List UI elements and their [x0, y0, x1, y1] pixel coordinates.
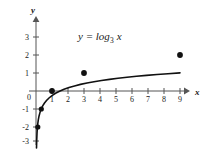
data-point	[49, 88, 55, 94]
x-axis-label: x	[194, 87, 200, 97]
x-tick-label: 8	[162, 95, 166, 104]
x-tick-label: 5	[114, 95, 118, 104]
x-tick-label: 2	[66, 95, 70, 104]
x-tick-label: 3	[82, 95, 86, 104]
equation-annotation: y = log3x	[77, 30, 122, 45]
x-axis-arrow-icon	[184, 88, 190, 95]
equation-main: y = log	[77, 30, 110, 42]
y-tick-label-origin: 0	[27, 93, 31, 102]
y-tick-label: 1	[25, 69, 29, 78]
data-point	[39, 106, 44, 111]
y-tick-label: -3	[22, 137, 29, 146]
data-point	[177, 52, 183, 58]
y-tick-label: 3	[25, 33, 29, 42]
y-tick-label: -2	[22, 123, 29, 132]
equation-base-subscript: 3	[110, 36, 114, 45]
x-tick-label: 4	[98, 95, 102, 104]
data-point	[81, 70, 87, 76]
y-axis-label: y	[30, 5, 36, 15]
y-tick-label: -1	[22, 105, 29, 114]
x-tick-label: 6	[130, 95, 134, 104]
y-axis-arrow-icon	[33, 16, 40, 22]
equation-argument: x	[116, 30, 122, 42]
data-point	[35, 124, 40, 129]
x-tick-labels-group: 1 2 3 4 5 6 7 8 9	[50, 95, 182, 104]
x-tick-label: 9	[178, 95, 182, 104]
log-curve	[37, 73, 181, 148]
log-function-graph-figure: 1 2 3 4 5 6 7 8 9 3 2 1 0 -1 -2 -3 x y	[0, 0, 208, 150]
y-tick-label: 2	[25, 51, 29, 60]
y-tick-labels-group: 3 2 1 0 -1 -2 -3	[22, 33, 31, 146]
x-tick-label: 7	[146, 95, 150, 104]
plot-canvas: 1 2 3 4 5 6 7 8 9 3 2 1 0 -1 -2 -3 x y	[0, 0, 208, 150]
